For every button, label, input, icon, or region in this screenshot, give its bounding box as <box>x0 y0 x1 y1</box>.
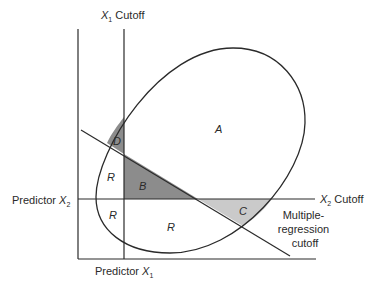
region-a-label: A <box>214 123 222 135</box>
predictor-x1-label: Predictor X1 <box>95 265 153 279</box>
region-b-label: B <box>139 180 146 192</box>
region-r-upper-label: R <box>107 171 115 183</box>
region-c-shade <box>198 199 272 226</box>
region-r-lower-right-label: R <box>167 221 175 233</box>
scatter-ellipse <box>96 48 305 253</box>
region-d-label: D <box>113 135 121 147</box>
multiple-regression-label: Multiple- regression cutoff <box>278 209 332 249</box>
x2-cutoff-label: X2 Cutoff <box>319 193 364 207</box>
selection-diagram: A B C D R R R X1 Cutoff X2 Cutoff Predic… <box>0 0 377 285</box>
x1-cutoff-label: X1 Cutoff <box>100 9 145 23</box>
region-r-lower-left-label: R <box>109 209 117 221</box>
multiple-regression-cutoff-line <box>81 130 290 256</box>
predictor-x2-label: Predictor X2 <box>12 194 70 208</box>
region-b-shade <box>124 154 198 199</box>
region-c-label: C <box>239 205 247 217</box>
